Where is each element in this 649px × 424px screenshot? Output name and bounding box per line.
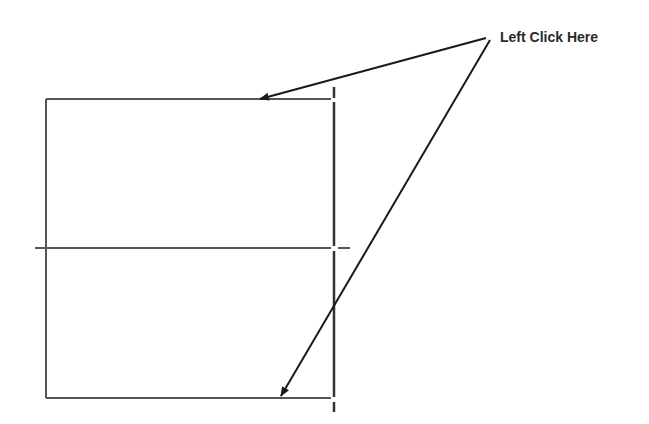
drawing-canvas (0, 0, 649, 424)
arrow-to-bottom-edge (281, 40, 490, 396)
arrow-to-top-edge (260, 38, 486, 99)
left-click-here-label: Left Click Here (500, 29, 598, 45)
